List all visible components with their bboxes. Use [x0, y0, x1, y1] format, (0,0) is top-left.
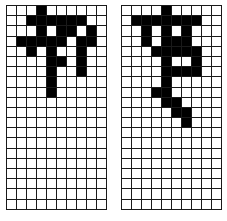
- empty-cell: [7, 189, 17, 199]
- empty-cell: [172, 88, 182, 98]
- empty-cell: [142, 179, 152, 189]
- empty-cell: [67, 169, 77, 179]
- empty-cell: [122, 118, 132, 128]
- empty-cell: [7, 128, 17, 138]
- empty-cell: [57, 67, 67, 77]
- filled-cell: [162, 98, 172, 108]
- empty-cell: [57, 77, 67, 87]
- empty-cell: [162, 179, 172, 189]
- empty-cell: [57, 138, 67, 148]
- empty-cell: [152, 169, 162, 179]
- empty-cell: [212, 98, 222, 108]
- empty-cell: [67, 6, 77, 16]
- filled-cell: [152, 16, 162, 26]
- empty-cell: [7, 16, 17, 26]
- empty-cell: [87, 57, 97, 67]
- empty-cell: [172, 159, 182, 169]
- filled-cell: [172, 67, 182, 77]
- empty-cell: [7, 98, 17, 108]
- empty-cell: [212, 200, 222, 210]
- empty-cell: [132, 149, 142, 159]
- empty-cell: [202, 189, 212, 199]
- empty-cell: [87, 138, 97, 148]
- empty-cell: [132, 108, 142, 118]
- empty-cell: [212, 149, 222, 159]
- empty-cell: [17, 88, 27, 98]
- filled-cell: [192, 57, 202, 67]
- empty-cell: [77, 128, 87, 138]
- empty-cell: [202, 128, 212, 138]
- empty-cell: [27, 138, 37, 148]
- pixel-grid-right: [121, 5, 222, 210]
- empty-cell: [7, 108, 17, 118]
- empty-cell: [7, 169, 17, 179]
- empty-cell: [7, 179, 17, 189]
- filled-cell: [162, 77, 172, 87]
- empty-cell: [122, 128, 132, 138]
- empty-cell: [97, 149, 107, 159]
- empty-cell: [47, 149, 57, 159]
- empty-cell: [77, 200, 87, 210]
- empty-cell: [27, 149, 37, 159]
- filled-cell: [27, 37, 37, 47]
- filled-cell: [162, 6, 172, 16]
- filled-cell: [152, 88, 162, 98]
- empty-cell: [172, 77, 182, 87]
- empty-cell: [67, 88, 77, 98]
- empty-cell: [97, 128, 107, 138]
- empty-cell: [27, 179, 37, 189]
- filled-cell: [47, 37, 57, 47]
- empty-cell: [122, 179, 132, 189]
- filled-cell: [172, 108, 182, 118]
- empty-cell: [57, 108, 67, 118]
- empty-cell: [77, 77, 87, 87]
- empty-cell: [182, 138, 192, 148]
- empty-cell: [27, 88, 37, 98]
- empty-cell: [17, 26, 27, 36]
- filled-cell: [37, 16, 47, 26]
- empty-cell: [192, 138, 202, 148]
- filled-cell: [182, 67, 192, 77]
- empty-cell: [212, 57, 222, 67]
- empty-cell: [67, 57, 77, 67]
- empty-cell: [172, 57, 182, 67]
- empty-cell: [212, 189, 222, 199]
- empty-cell: [7, 159, 17, 169]
- empty-cell: [67, 128, 77, 138]
- filled-cell: [162, 88, 172, 98]
- empty-cell: [122, 67, 132, 77]
- empty-cell: [27, 159, 37, 169]
- empty-cell: [7, 57, 17, 67]
- empty-cell: [122, 57, 132, 67]
- empty-cell: [77, 189, 87, 199]
- filled-cell: [47, 57, 57, 67]
- filled-cell: [57, 26, 67, 36]
- empty-cell: [132, 118, 142, 128]
- empty-cell: [17, 98, 27, 108]
- empty-cell: [212, 128, 222, 138]
- empty-cell: [142, 149, 152, 159]
- empty-cell: [142, 128, 152, 138]
- empty-cell: [37, 57, 47, 67]
- filled-cell: [37, 37, 47, 47]
- empty-cell: [87, 6, 97, 16]
- empty-cell: [162, 159, 172, 169]
- empty-cell: [27, 128, 37, 138]
- empty-cell: [27, 98, 37, 108]
- empty-cell: [27, 189, 37, 199]
- empty-cell: [172, 189, 182, 199]
- empty-cell: [202, 57, 212, 67]
- empty-cell: [57, 149, 67, 159]
- empty-cell: [87, 98, 97, 108]
- filled-cell: [162, 57, 172, 67]
- empty-cell: [47, 179, 57, 189]
- empty-cell: [67, 138, 77, 148]
- empty-cell: [37, 108, 47, 118]
- empty-cell: [122, 189, 132, 199]
- empty-cell: [47, 128, 57, 138]
- empty-cell: [202, 108, 212, 118]
- empty-cell: [27, 6, 37, 16]
- empty-cell: [97, 47, 107, 57]
- empty-cell: [142, 200, 152, 210]
- filled-cell: [47, 47, 57, 57]
